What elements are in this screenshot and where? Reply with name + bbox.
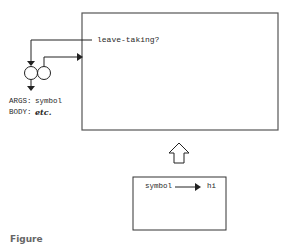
arrow-down-icon [27, 86, 35, 91]
return-line [44, 57, 78, 66]
body-key: BODY: [9, 108, 32, 116]
port-circle-right [38, 67, 51, 80]
query-line [31, 40, 92, 62]
leave-taking-label: leave-taking? [97, 35, 159, 44]
arrow-right-icon [195, 183, 201, 191]
port-circle-left [25, 67, 38, 80]
body-value: etc. [35, 107, 51, 117]
args-key: ARGS: [9, 97, 32, 105]
figure-caption: Figure [10, 234, 43, 244]
hollow-up-arrow-icon [169, 143, 189, 163]
args-value: symbol [35, 97, 62, 105]
symbol-label: symbol [145, 182, 172, 190]
main-box [82, 13, 278, 130]
arrow-down-icon [27, 61, 35, 66]
hi-label: hi [207, 182, 216, 190]
